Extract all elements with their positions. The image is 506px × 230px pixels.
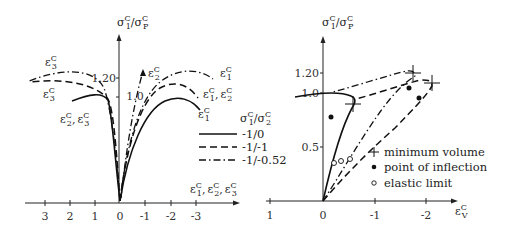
legend-label-2: -1/-1 (242, 140, 268, 154)
right-x-axis-label: εCV (455, 203, 468, 220)
plus-icon (369, 147, 379, 157)
left-x-tick-0: 0 (117, 210, 124, 223)
right-x-arrow-icon (451, 199, 458, 204)
left-legend: σC1/σC2 -1/0 -1/-1 -1/-0.52 (199, 110, 287, 167)
left-x-tick-1: 1 (92, 210, 99, 223)
left-y-tick-10: 1.0 (126, 90, 144, 103)
filled-dot-icon (372, 165, 377, 170)
annot-eps2: εC2 (148, 65, 160, 82)
legend-min-volume: minimum volume (384, 145, 485, 159)
annot-eps23: εC2,εC3 (60, 111, 89, 128)
figure: 3 2 1 0 -1 -2 -3 1.20 1.0 σC1/σCP εC1,εC… (0, 0, 506, 230)
annot-eps3-mid: εC3 (43, 86, 55, 103)
right-chart: 1 0 -1 -2 1.20 1.0 0.5 σC1/σCP εCV (266, 14, 488, 222)
left-x-tick-2: 2 (67, 210, 74, 223)
right-x-ticks: 1 0 -1 -2 (267, 198, 432, 222)
left-y-ticks: 1.20 1.0 (92, 72, 144, 103)
annot-eps1-top: εC1 (220, 65, 232, 82)
right-x-tick-0: 0 (320, 209, 327, 222)
right-x-tick-1: 1 (267, 209, 274, 222)
legend-title: σC1/σC2 (240, 110, 271, 127)
right-x-tick-m1: -1 (370, 209, 381, 222)
right-legend: minimum volume point of inflection elast… (369, 145, 488, 190)
left-y-arrow-icon (117, 34, 122, 41)
legend-inflection: point of inflection (384, 160, 488, 174)
right-y-axis-label: σC1/σCP (322, 14, 354, 31)
left-x-tick-m2: -2 (166, 210, 177, 223)
curve-solid-eps1 (120, 98, 200, 201)
left-x-axis-label: εC1,εC2,εC3 (190, 181, 237, 198)
legend-label-3: -1/-0.52 (242, 153, 287, 167)
annot-eps1-low: εC1 (198, 106, 210, 123)
eps2-arrowhead-icon (140, 69, 146, 76)
annot-eps3-top: εC3 (45, 54, 57, 71)
curve-dashdot-eps3 (27, 72, 120, 201)
legend-elastic: elastic limit (384, 176, 453, 190)
left-x-tick-m1: -1 (140, 210, 151, 223)
right-y-ticks: 1.20 1.0 0.5 (295, 67, 324, 154)
legend-label-1: -1/0 (242, 127, 264, 141)
right-y-tick-120: 1.20 (295, 67, 320, 80)
left-x-tick-m3: -3 (191, 210, 202, 223)
curve-solid-eps23 (72, 95, 120, 201)
elastic-limit-markers (332, 157, 353, 166)
right-x-tick-m2: -2 (421, 209, 432, 222)
left-x-arrow-icon (233, 201, 240, 206)
right-y-tick-05: 0.5 (302, 141, 320, 154)
left-chart: 3 2 1 0 -1 -2 -3 1.20 1.0 σC1/σCP εC1,εC… (25, 14, 287, 223)
annot-eps12: εC1,εC2 (203, 86, 232, 103)
right-y-arrow-icon (321, 36, 326, 43)
open-dot-icon (372, 181, 376, 185)
left-x-tick-3: 3 (42, 210, 49, 223)
left-y-axis-label: σC1/σCP (117, 14, 149, 31)
